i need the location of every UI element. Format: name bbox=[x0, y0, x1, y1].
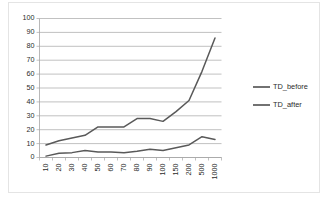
y-tick-label: 60 bbox=[27, 69, 35, 78]
x-tick-label: 1000 bbox=[210, 164, 219, 180]
x-tick-label: 200 bbox=[184, 164, 193, 176]
legend-label: TD_before bbox=[273, 82, 308, 91]
chart-container: 1009080706050403020100 10203040506070809… bbox=[0, 0, 328, 199]
x-tick-label: 20 bbox=[54, 164, 63, 172]
x-tick-label: 90 bbox=[145, 164, 154, 172]
y-tick-label: 80 bbox=[27, 41, 35, 50]
x-tick-label: 30 bbox=[67, 164, 76, 172]
y-tick-label: 100 bbox=[23, 13, 35, 22]
chart-legend: TD_beforeTD_after bbox=[253, 82, 308, 109]
y-tick-labels: 1009080706050403020100 bbox=[23, 13, 35, 161]
x-tick-label: 10 bbox=[41, 164, 50, 172]
line-chart: 1009080706050403020100 10203040506070809… bbox=[0, 0, 328, 199]
x-axis bbox=[40, 158, 222, 161]
y-tick-label: 10 bbox=[27, 139, 35, 148]
x-tick-labels: 1020304050607080901001502005001000 bbox=[41, 164, 219, 180]
x-tick-label: 100 bbox=[158, 164, 167, 176]
x-tick-label: 50 bbox=[93, 164, 102, 172]
x-tick-label: 150 bbox=[171, 164, 180, 176]
x-tick-label: 80 bbox=[132, 164, 141, 172]
y-tick-label: 90 bbox=[27, 27, 35, 36]
y-tick-label: 20 bbox=[27, 125, 35, 134]
y-tick-label: 40 bbox=[27, 97, 35, 106]
x-tick-label: 70 bbox=[119, 164, 128, 172]
series-line-td-before bbox=[46, 38, 215, 145]
y-tick-label: 70 bbox=[27, 55, 35, 64]
y-tick-label: 30 bbox=[27, 111, 35, 120]
x-tick-label: 500 bbox=[197, 164, 206, 176]
y-axis bbox=[37, 19, 40, 158]
legend-label: TD_after bbox=[273, 100, 302, 109]
x-tick-label: 40 bbox=[80, 164, 89, 172]
y-tick-label: 50 bbox=[27, 83, 35, 92]
series-line-td-after bbox=[46, 137, 215, 156]
y-tick-label: 0 bbox=[31, 152, 35, 161]
x-tick-label: 60 bbox=[106, 164, 115, 172]
series-lines bbox=[46, 38, 215, 156]
